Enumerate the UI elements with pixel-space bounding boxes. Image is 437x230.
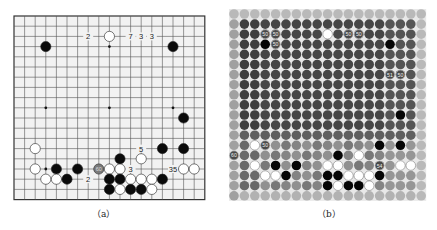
move-label: 2 — [86, 175, 90, 184]
value-label: 50 — [273, 31, 279, 37]
heat-cell — [416, 151, 426, 161]
move-label: 3 — [150, 32, 154, 41]
heat-cell — [364, 141, 374, 151]
white-stone — [344, 171, 354, 181]
heat-cell — [302, 161, 312, 171]
black-stone — [115, 174, 125, 184]
svg-text:60: 60 — [96, 166, 102, 172]
black-stone — [115, 154, 125, 164]
heat-cell — [292, 100, 302, 110]
heat-cell — [240, 181, 250, 191]
heat-cell — [385, 9, 395, 19]
heat-cell — [333, 9, 343, 19]
white-stone — [250, 141, 260, 151]
heat-cell — [354, 50, 364, 60]
heat-cell — [240, 141, 250, 151]
heat-cell — [281, 50, 291, 60]
heat-cell — [364, 130, 374, 140]
heat-cell — [240, 191, 250, 201]
heat-cell — [312, 70, 322, 80]
heat-cell — [333, 130, 343, 140]
heat-cell — [406, 19, 416, 29]
black-stone — [168, 42, 178, 52]
heat-cell — [406, 50, 416, 60]
heat-cell — [354, 40, 364, 50]
heat-cell — [333, 29, 343, 39]
heat-cell — [240, 161, 250, 171]
heat-cell — [354, 60, 364, 70]
heat-cell — [302, 191, 312, 201]
heat-cell — [375, 100, 385, 110]
heat-cell — [364, 151, 374, 161]
heat-cell — [281, 110, 291, 120]
black-stone — [179, 113, 189, 123]
heat-cell — [354, 191, 364, 201]
black-stone — [396, 141, 406, 151]
heat-cell — [281, 191, 291, 201]
heat-cell — [260, 191, 270, 201]
value-label: 50 — [356, 31, 362, 37]
heat-cell — [250, 40, 260, 50]
heat-cell — [229, 110, 239, 120]
heat-cell — [271, 50, 281, 60]
heat-cell — [396, 40, 406, 50]
value-label: 54 — [377, 163, 383, 169]
heat-cell — [364, 90, 374, 100]
heat-cell — [396, 60, 406, 70]
heat-cell — [364, 191, 374, 201]
heat-cell — [260, 60, 270, 70]
heat-cell — [396, 120, 406, 130]
heat-cell — [354, 90, 364, 100]
heat-cell — [416, 9, 426, 19]
heat-cell — [229, 161, 239, 171]
heat-cell — [229, 141, 239, 151]
value-label: 60 — [231, 152, 237, 158]
heat-cell — [333, 141, 343, 151]
heat-cell — [406, 29, 416, 39]
heat-cell — [302, 151, 312, 161]
heat-cell — [312, 161, 322, 171]
heat-cell — [302, 141, 312, 151]
heat-cell — [396, 90, 406, 100]
heat-cell — [229, 100, 239, 110]
heat-cell — [271, 191, 281, 201]
black-stone — [51, 164, 61, 174]
heat-cell — [229, 80, 239, 90]
go-heatmap-board-b: 50505050505150506054 — [222, 0, 437, 210]
heat-cell — [260, 90, 270, 100]
heat-cell — [271, 120, 281, 130]
heat-cell — [385, 110, 395, 120]
heat-cell — [271, 80, 281, 90]
heat-cell — [271, 19, 281, 29]
heat-cell — [416, 181, 426, 191]
heat-cell — [416, 110, 426, 120]
heat-cell — [416, 50, 426, 60]
heat-cell — [240, 90, 250, 100]
heat-cell — [312, 120, 322, 130]
heat-cell — [229, 60, 239, 70]
heat-cell — [323, 151, 333, 161]
heat-cell — [364, 19, 374, 29]
heat-cell — [406, 80, 416, 90]
heat-cell — [375, 50, 385, 60]
heat-cell — [240, 100, 250, 110]
heat-cell — [406, 130, 416, 140]
heat-cell — [292, 50, 302, 60]
heat-cell — [416, 29, 426, 39]
heat-cell — [271, 110, 281, 120]
heat-cell — [240, 50, 250, 60]
heat-cell — [354, 110, 364, 120]
move-label: 35 — [169, 165, 177, 174]
heat-cell — [312, 19, 322, 29]
heat-cell — [406, 120, 416, 130]
white-stone — [333, 181, 343, 191]
black-stone — [73, 164, 83, 174]
heat-cell — [344, 151, 354, 161]
heat-cell — [385, 100, 395, 110]
white-stone — [51, 174, 61, 184]
heat-cell — [281, 181, 291, 191]
move-label: 3 — [139, 32, 143, 41]
heat-cell — [240, 70, 250, 80]
heat-cell — [271, 70, 281, 80]
heat-cell — [416, 40, 426, 50]
